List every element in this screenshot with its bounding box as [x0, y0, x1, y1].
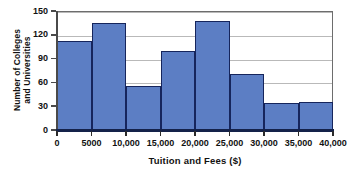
bar-25,000-30,000: [230, 74, 265, 130]
bar-35,000-40,000: [299, 102, 334, 130]
y-tick-120: [51, 34, 56, 36]
y-tick-30: [51, 105, 56, 107]
y-tick-label-30: 30: [18, 102, 48, 111]
y-tick-150: [51, 10, 56, 12]
histogram-chart: Number of Colleges and Universities Tuit…: [0, 0, 358, 178]
y-tick-0: [51, 129, 56, 131]
y-axis-title-line-2: and Universities: [22, 36, 33, 103]
x-tick-20000: [194, 131, 196, 136]
y-tick-label-120: 120: [18, 30, 48, 39]
y-tick-label-0: 0: [18, 126, 48, 135]
bar-15,000-20,000: [161, 51, 196, 130]
y-axis-title-line-1: Number of Colleges: [12, 29, 23, 111]
x-axis-title: Tuition and Fees ($): [57, 155, 333, 166]
y-tick-90: [51, 58, 56, 60]
x-tick-0: [56, 131, 58, 136]
y-tick-label-60: 60: [18, 78, 48, 87]
bar-30,000-35,000: [264, 103, 299, 130]
bar-0-5000: [57, 41, 92, 130]
x-tick-10000: [125, 131, 127, 136]
x-tick-5000: [91, 131, 93, 136]
y-axis-line: [56, 11, 58, 130]
gridline-y-150: [57, 12, 332, 13]
bar-10,000-15,000: [126, 86, 161, 130]
x-tick-label-40000: 40,000: [310, 138, 356, 148]
bar-20,000-25,000: [195, 21, 230, 130]
y-tick-label-90: 90: [18, 54, 48, 63]
x-tick-35000: [298, 131, 300, 136]
plot-area: [57, 11, 333, 130]
x-tick-40000: [332, 131, 334, 136]
x-tick-30000: [263, 131, 265, 136]
bar-5000-10,000: [92, 23, 127, 130]
x-tick-15000: [160, 131, 162, 136]
y-axis-title: Number of Colleges and Universities: [7, 6, 37, 134]
y-tick-label-150: 150: [18, 7, 48, 16]
y-tick-60: [51, 82, 56, 84]
x-tick-25000: [229, 131, 231, 136]
